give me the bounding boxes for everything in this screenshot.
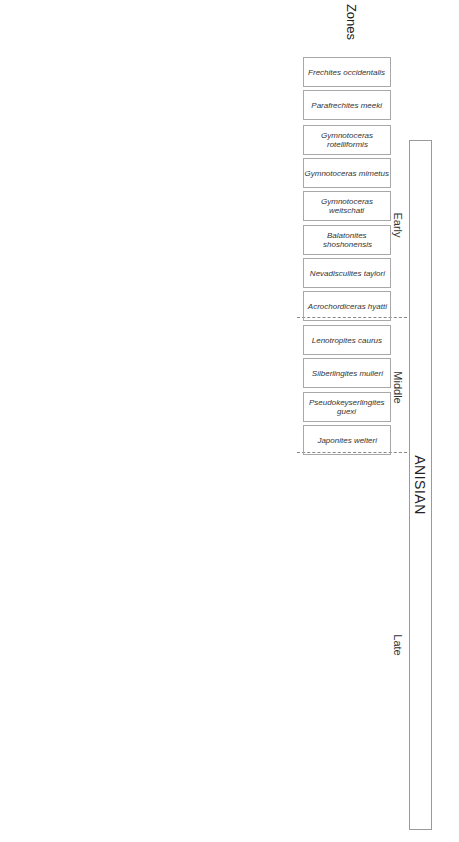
zone-japonites-welteri: Japonites welteri bbox=[303, 425, 391, 455]
zone-gymnotoceras-mimetus: Gymnotoceras mimetus bbox=[303, 158, 391, 188]
zone-balatonites-shoshonensis: Balatonites shoshonensis bbox=[303, 225, 391, 255]
zone-pseudokeyserlingites-guexi: Pseudokeyserlingites guexi bbox=[303, 392, 391, 422]
zone-lenotropites-caurus: Lenotropites caurus bbox=[303, 325, 391, 355]
zone-parafrechites-meeki: Parafrechites meeki bbox=[303, 90, 391, 120]
zone-silberlingites-mulleri: Silberlingites mulleri bbox=[303, 358, 391, 388]
zone-nevadisculites-taylori: Nevadisculites taylori bbox=[303, 258, 391, 288]
biostratigraphy-diagram: ANISIAN Early Middle Late Zones Frechite… bbox=[0, 0, 459, 842]
stage-title: ANISIAN bbox=[409, 140, 432, 830]
zone-gymnotoceras-weitschati: Gymnotoceras weitschati bbox=[303, 191, 391, 221]
period-late: Late bbox=[392, 455, 404, 835]
zones-axis-label: Zones bbox=[344, 2, 359, 42]
period-middle: Middle bbox=[392, 325, 404, 450]
period-early: Early bbox=[392, 130, 404, 320]
zone-frechites-occidentalis: Frechites occidentalis bbox=[303, 57, 391, 87]
zone-acrochordiceras-hyatti: Acrochordiceras hyatti bbox=[303, 291, 391, 321]
zone-gymnotoceras-rotelliformis: Gymnotoceras rotelliformis bbox=[303, 125, 391, 155]
